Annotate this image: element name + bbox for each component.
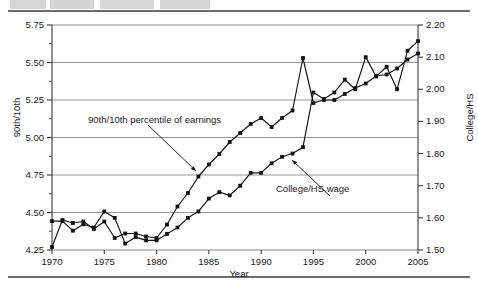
x-axis-tick-2000: 2000 xyxy=(343,256,389,267)
annotation-percentile-earnings: 90th/10th percentile of earnings xyxy=(88,114,221,125)
left-axis-label: 90th/10th xyxy=(11,78,22,158)
right-axis-tick-1.8: 1.80 xyxy=(426,148,466,159)
left-axis-tick-5.5: 5.50 xyxy=(4,57,44,68)
left-axis-tick-5.25: 5.25 xyxy=(4,94,44,105)
x-axis-tick-1975: 1975 xyxy=(81,256,127,267)
left-axis-tick-5.75: 5.75 xyxy=(4,19,44,30)
x-axis-label: Year xyxy=(0,268,478,279)
x-axis-tick-1990: 1990 xyxy=(238,256,284,267)
chart-figure xyxy=(0,0,478,287)
right-axis-tick-2: 2.00 xyxy=(426,83,466,94)
x-axis-tick-2005: 2005 xyxy=(395,256,441,267)
left-axis-tick-4.25: 4.25 xyxy=(4,244,44,255)
left-axis-tick-4.75: 4.75 xyxy=(4,169,44,180)
x-axis-tick-1980: 1980 xyxy=(134,256,180,267)
left-axis-tick-4.5: 4.50 xyxy=(4,207,44,218)
right-axis-tick-2.2: 2.20 xyxy=(426,19,466,30)
right-axis-tick-1.5: 1.50 xyxy=(426,244,466,255)
right-axis-tick-1.6: 1.60 xyxy=(426,212,466,223)
annotation-college-hs-wage: College/HS wage xyxy=(276,183,349,194)
right-axis-tick-1.9: 1.90 xyxy=(426,115,466,126)
right-axis-tick-1.7: 1.70 xyxy=(426,180,466,191)
left-axis-tick-5: 5.00 xyxy=(4,132,44,143)
chart-canvas xyxy=(0,0,478,287)
x-axis-tick-1995: 1995 xyxy=(290,256,336,267)
right-axis-tick-2.1: 2.10 xyxy=(426,51,466,62)
x-axis-tick-1985: 1985 xyxy=(186,256,232,267)
x-axis-tick-1970: 1970 xyxy=(29,256,75,267)
